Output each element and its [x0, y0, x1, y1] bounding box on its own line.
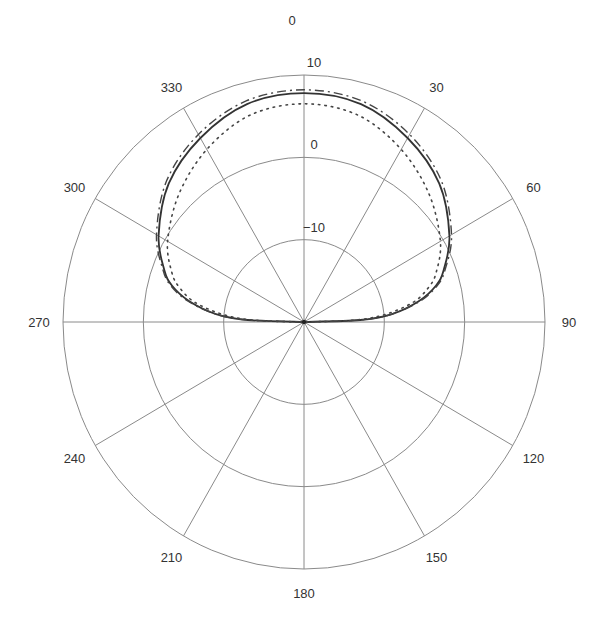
theta-tick-label: 30	[429, 80, 443, 95]
theta-tick-label: 210	[161, 550, 183, 565]
spoke-150	[304, 322, 425, 536]
axis-labels: −100100306090120150180210240270300330	[28, 13, 576, 601]
polar-chart: −100100306090120150180210240270300330	[0, 0, 604, 622]
theta-tick-label: 150	[426, 550, 448, 565]
center-point	[302, 320, 306, 324]
spoke-60	[304, 199, 513, 323]
r-tick-label: 10	[307, 55, 321, 70]
spoke-240	[95, 322, 304, 446]
spoke-300	[95, 199, 304, 323]
theta-tick-label: 240	[64, 451, 86, 466]
theta-tick-label: 270	[28, 315, 50, 330]
theta-tick-label: 300	[64, 180, 86, 195]
theta-tick-label: 330	[161, 80, 183, 95]
spoke-330	[184, 108, 305, 322]
theta-tick-label: 90	[562, 315, 576, 330]
r-tick-label: −10	[303, 220, 325, 235]
theta-tick-label: 0	[288, 13, 295, 28]
theta-tick-label: 60	[526, 180, 540, 195]
r-tick-label: 0	[310, 137, 317, 152]
spoke-210	[184, 322, 305, 536]
theta-tick-label: 120	[523, 451, 545, 466]
spoke-120	[304, 322, 513, 446]
theta-tick-label: 180	[293, 586, 315, 601]
spoke-30	[304, 108, 425, 322]
